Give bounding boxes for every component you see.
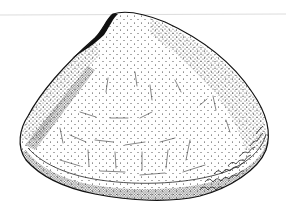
shell-drawing: [0, 0, 286, 221]
shell-illustration: Stippled scientific illustration of a bi…: [0, 0, 286, 221]
